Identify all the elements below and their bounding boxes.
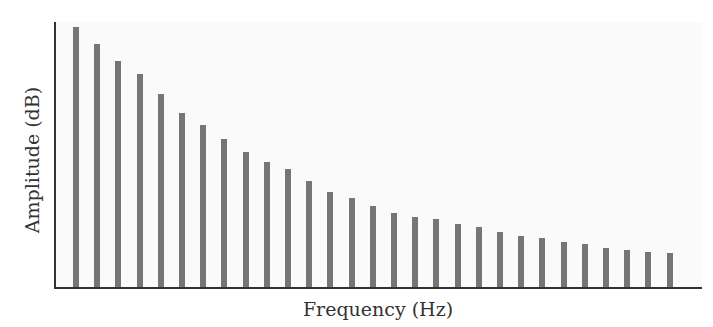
bar xyxy=(200,125,206,287)
bar xyxy=(582,244,588,287)
y-axis-label: Amplitude (dB) xyxy=(21,87,43,233)
x-axis-line xyxy=(54,287,702,289)
x-axis-label: Frequency (Hz) xyxy=(303,298,453,320)
bar xyxy=(645,252,651,287)
bar xyxy=(221,139,227,287)
bar xyxy=(497,232,503,287)
bar xyxy=(391,213,397,287)
bar xyxy=(285,169,291,287)
bar xyxy=(603,248,609,287)
bar xyxy=(624,250,630,287)
bar xyxy=(94,44,100,287)
bar xyxy=(455,224,461,287)
bar xyxy=(243,152,249,287)
bar xyxy=(327,192,333,287)
bar xyxy=(370,206,376,287)
bar xyxy=(518,236,524,287)
bar xyxy=(73,27,79,287)
bar xyxy=(264,162,270,287)
bar xyxy=(412,217,418,287)
bar xyxy=(306,181,312,287)
bar xyxy=(667,253,673,287)
bar xyxy=(476,227,482,287)
bar xyxy=(539,238,545,287)
bar xyxy=(115,61,121,287)
bar xyxy=(433,219,439,287)
bar xyxy=(137,74,143,287)
bar xyxy=(179,113,185,287)
bar xyxy=(561,242,567,287)
bar xyxy=(158,94,164,287)
bar xyxy=(349,198,355,287)
y-axis-line xyxy=(54,22,56,288)
